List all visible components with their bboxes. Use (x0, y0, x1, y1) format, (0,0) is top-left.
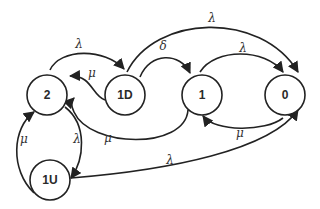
edge-label-1D-2: μ (88, 66, 96, 80)
node-1: 1 (182, 75, 222, 115)
edge-label-1U-0: λ (165, 153, 174, 167)
node-label: 2 (44, 88, 51, 102)
edge-1-to-0 (200, 54, 283, 72)
node-label: 1D (117, 88, 133, 102)
node-label: 0 (282, 88, 289, 102)
edge-label-1-2: μ (104, 131, 112, 145)
edge-label-1U-2: μ (20, 132, 28, 146)
node-label: 1U (42, 173, 57, 187)
node-1U: 1U (30, 160, 70, 200)
state-diagram: 2 1D 1 0 1U λ μ δ λ λ μ μ λ μ λ (0, 0, 320, 209)
node-0: 0 (265, 75, 305, 115)
edge-1D-to-0 (127, 27, 298, 72)
edge-label-1-0: λ (238, 41, 247, 55)
edge-label-2-1D: λ (74, 37, 83, 51)
diagram-svg: 2 1D 1 0 1U λ μ δ λ λ μ μ λ μ λ (0, 0, 320, 209)
node-label: 1 (199, 88, 206, 102)
edge-label-2-1U: λ (72, 132, 81, 146)
edge-1D-to-1 (140, 58, 190, 77)
edge-label-1D-0: λ (207, 11, 216, 25)
node-1D: 1D (105, 75, 145, 115)
edge-label-1D-1: δ (159, 39, 166, 53)
edge-label-0-1: μ (236, 126, 244, 140)
edge-2-to-1D (50, 53, 124, 70)
node-2: 2 (27, 75, 67, 115)
